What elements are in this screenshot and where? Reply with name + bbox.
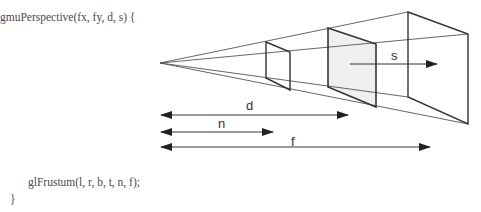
d-label: d [246,98,253,113]
far-plane [408,12,468,124]
n-label: n [218,116,225,131]
f-label: f [291,134,295,149]
frustum-edges [160,12,468,124]
closing-brace: } [10,193,16,205]
near-plane [266,42,290,90]
s-label: s [391,48,398,63]
projection-plane [328,28,376,107]
glfrustum-call: glFrustum(l, r, b, t, n, f); [28,176,140,188]
